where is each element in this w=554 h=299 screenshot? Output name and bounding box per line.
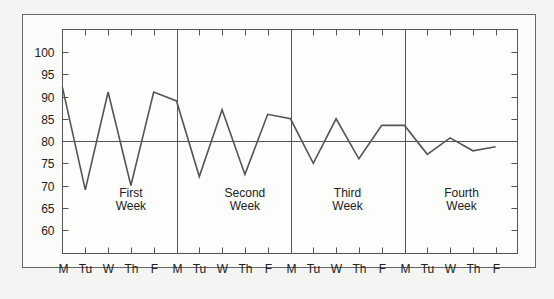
x-tick-label: F <box>265 262 272 276</box>
y-tick-label: 90 <box>41 91 55 105</box>
x-tick-label: W <box>103 262 115 276</box>
x-tick-label: W <box>331 262 343 276</box>
y-tick-label: 95 <box>41 68 55 82</box>
x-tick-label: Tu <box>79 262 93 276</box>
y-tick-label: 60 <box>41 224 55 238</box>
y-tick-label: 65 <box>41 202 55 216</box>
x-tick-label: F <box>379 262 386 276</box>
y-tick-label: 80 <box>41 135 55 149</box>
line-chart: 6065707580859095100 MTuWThFMTuWThFMTuWTh… <box>0 0 554 299</box>
x-tick-label: Tu <box>307 262 321 276</box>
x-tick-label: Tu <box>193 262 207 276</box>
x-tick-label: M <box>287 262 297 276</box>
y-tick-label: 70 <box>41 180 55 194</box>
week-label: First <box>119 186 143 200</box>
x-tick-label: F <box>493 262 500 276</box>
x-tick-label: F <box>151 262 158 276</box>
x-tick-label: M <box>59 262 69 276</box>
week-label: Week <box>116 199 147 213</box>
x-tick-label: Th <box>238 262 252 276</box>
y-tick-label: 100 <box>34 46 54 60</box>
week-label: Second <box>225 186 266 200</box>
x-tick-label: Tu <box>421 262 435 276</box>
week-label: Week <box>446 199 477 213</box>
x-tick-label: Th <box>124 262 138 276</box>
week-label: Week <box>230 199 261 213</box>
week-label: Week <box>332 199 363 213</box>
x-tick-label: M <box>173 262 183 276</box>
y-tick-label: 75 <box>41 157 55 171</box>
x-tick-label: Th <box>466 262 480 276</box>
x-tick-label: M <box>401 262 411 276</box>
x-tick-label: Th <box>352 262 366 276</box>
x-tick-label: W <box>217 262 229 276</box>
y-tick-label: 85 <box>41 113 55 127</box>
week-label: Fourth <box>444 186 479 200</box>
x-tick-label: W <box>445 262 457 276</box>
week-label: Third <box>334 186 361 200</box>
